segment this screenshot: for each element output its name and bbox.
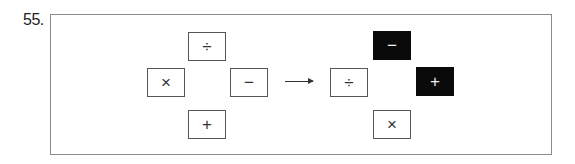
left-bottom-box: +	[188, 110, 226, 139]
figure-frame	[50, 14, 552, 155]
right-arrow-icon	[285, 81, 313, 82]
left-right-box: −	[230, 68, 268, 97]
divide-symbol: ÷	[344, 73, 353, 93]
left-top-box: ÷	[188, 32, 226, 61]
right-bottom-box: ×	[373, 110, 411, 139]
right-right-box-filled: +	[416, 67, 454, 96]
left-left-box: ×	[147, 68, 185, 97]
plus-symbol: +	[430, 72, 440, 92]
minus-symbol: −	[387, 36, 397, 56]
minus-symbol: −	[244, 73, 254, 93]
plus-symbol: +	[202, 115, 212, 135]
problem-number: 55.	[23, 11, 44, 29]
multiply-symbol: ×	[161, 73, 171, 93]
multiply-symbol: ×	[387, 115, 397, 135]
right-top-box-filled: −	[373, 31, 411, 60]
right-left-box: ÷	[330, 68, 368, 97]
divide-symbol: ÷	[202, 37, 211, 57]
